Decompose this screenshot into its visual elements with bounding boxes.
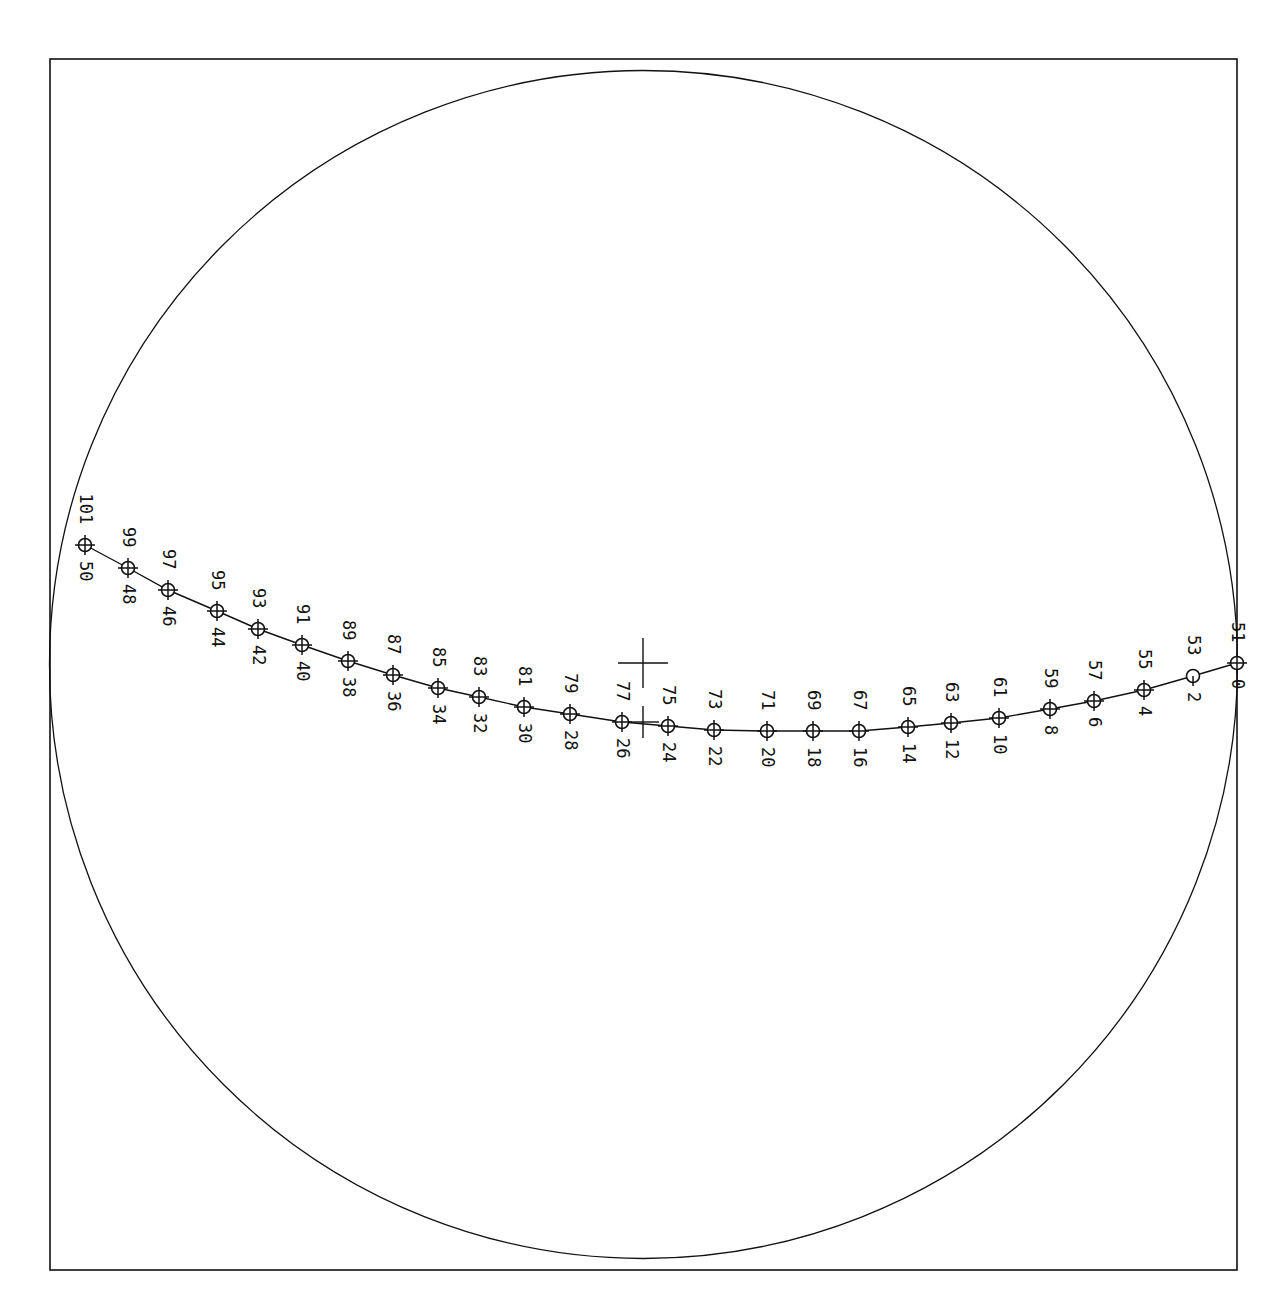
label-bottom: 36 (384, 691, 404, 711)
crosshair-marker-icon (75, 535, 95, 555)
crosshair-marker-icon (514, 697, 534, 717)
sky-plot: 1015099489746954493429140893887368534833… (0, 0, 1284, 1304)
label-top: 57 (1085, 660, 1105, 680)
crosshair-marker-icon (803, 721, 823, 741)
crosshair-marker-icon (1227, 653, 1247, 673)
label-top: 99 (119, 527, 139, 547)
label-bottom: 22 (705, 746, 725, 766)
crosshair-marker-icon (658, 716, 678, 736)
label-bottom: 16 (850, 747, 870, 767)
label-bottom: 24 (659, 742, 679, 762)
label-top: 79 (561, 673, 581, 693)
crosshair-marker-icon (941, 713, 961, 733)
crosshair-marker-icon (704, 720, 724, 740)
crosshair-marker-icon (849, 721, 869, 741)
label-top: 75 (659, 685, 679, 705)
crosshair-marker-icon (612, 712, 632, 732)
label-bottom: 2 (1184, 692, 1204, 702)
label-top: 51 (1228, 622, 1248, 642)
label-top: 73 (705, 689, 725, 709)
track-markers (75, 535, 1247, 741)
crosshair-marker-icon (989, 708, 1009, 728)
crosshair-marker-icon (292, 635, 312, 655)
label-bottom: 6 (1085, 717, 1105, 727)
label-bottom: 34 (429, 704, 449, 724)
label-bottom: 40 (293, 661, 313, 681)
label-top: 71 (758, 690, 778, 710)
label-top: 85 (429, 647, 449, 667)
open-circle-marker-icon (1187, 670, 1200, 687)
label-bottom: 32 (470, 713, 490, 733)
label-top: 97 (159, 549, 179, 569)
label-bottom: 46 (159, 606, 179, 626)
label-top: 91 (293, 604, 313, 624)
crosshair-marker-icon (428, 678, 448, 698)
label-top: 101 (76, 494, 96, 525)
label-top: 83 (470, 656, 490, 676)
label-bottom: 28 (561, 730, 581, 750)
crosshair-marker-icon (248, 619, 268, 639)
label-top: 61 (990, 677, 1010, 697)
label-bottom: 20 (758, 747, 778, 767)
label-top: 89 (339, 620, 359, 640)
label-top: 69 (804, 690, 824, 710)
label-top: 65 (899, 686, 919, 706)
label-bottom: 14 (899, 743, 919, 763)
crosshair-marker-icon (898, 717, 918, 737)
label-top: 55 (1135, 649, 1155, 669)
crosshair-marker-icon (1040, 699, 1060, 719)
label-bottom: 50 (76, 561, 96, 581)
label-top: 53 (1184, 635, 1204, 655)
label-bottom: 38 (339, 677, 359, 697)
crosshair-marker-icon (118, 558, 138, 578)
label-bottom: 8 (1041, 725, 1061, 735)
label-top: 81 (515, 666, 535, 686)
label-bottom: 10 (990, 734, 1010, 754)
crosshair-marker-icon (560, 704, 580, 724)
label-top: 59 (1041, 668, 1061, 688)
label-top: 87 (384, 634, 404, 654)
crosshair-marker-icon (1134, 680, 1154, 700)
crosshair-marker-icon (383, 665, 403, 685)
crosshair-marker-icon (158, 580, 178, 600)
label-bottom: 42 (249, 645, 269, 665)
label-top: 63 (942, 682, 962, 702)
crosshair-marker-icon (338, 651, 358, 671)
crosshair-marker-icon (207, 601, 227, 621)
label-bottom: 4 (1135, 706, 1155, 716)
crosshair-marker-icon (1084, 691, 1104, 711)
label-bottom: 18 (804, 747, 824, 767)
label-bottom: 44 (208, 627, 228, 647)
label-top: 93 (249, 588, 269, 608)
label-bottom: 26 (613, 738, 633, 758)
crosshair-marker-icon (757, 721, 777, 741)
label-top: 77 (613, 681, 633, 701)
label-bottom: 0 (1228, 679, 1248, 689)
label-bottom: 30 (515, 723, 535, 743)
label-top: 95 (208, 570, 228, 590)
label-bottom: 48 (119, 584, 139, 604)
crosshair-marker-icon (469, 687, 489, 707)
label-bottom: 12 (942, 739, 962, 759)
label-top: 67 (850, 690, 870, 710)
